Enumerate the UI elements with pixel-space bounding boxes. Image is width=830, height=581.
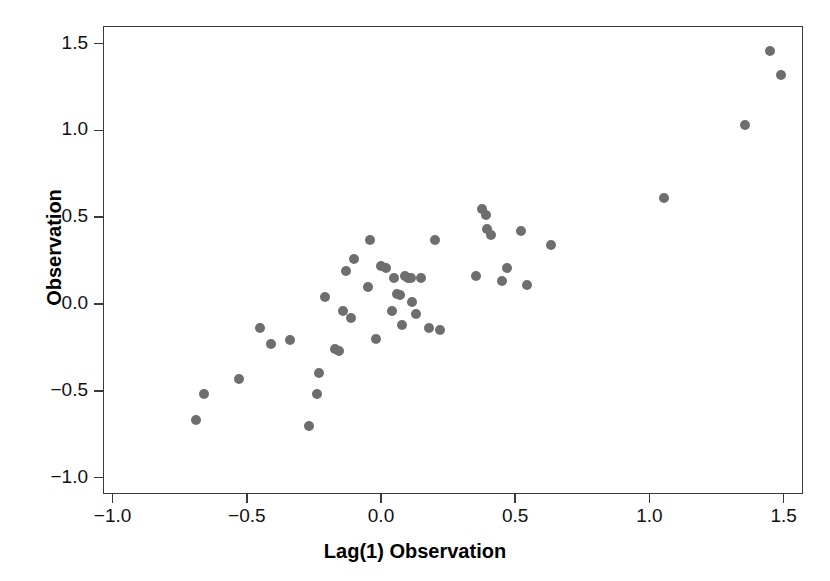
y-axis-tick <box>94 216 103 218</box>
lag-plot-figure: −1.0−0.50.00.51.01.5−1.0−0.50.00.51.01.5… <box>0 0 830 581</box>
x-axis-tick-label: 0.0 <box>341 505 421 527</box>
x-axis-tick <box>112 494 114 503</box>
x-axis-tick <box>246 494 248 503</box>
x-axis-tick <box>649 494 651 503</box>
x-axis-tick-label: −1.0 <box>73 505 153 527</box>
plot-frame <box>103 26 803 494</box>
y-axis-tick-label: 1.5 <box>0 32 88 54</box>
y-axis-title: Observation <box>43 98 66 398</box>
y-axis-tick <box>94 303 103 305</box>
x-axis-tick <box>783 494 785 503</box>
x-axis-tick-label: 0.5 <box>475 505 555 527</box>
y-axis-tick <box>94 43 103 45</box>
x-axis-tick-label: −0.5 <box>207 505 287 527</box>
x-axis-tick <box>380 494 382 503</box>
y-axis-tick-label: −1.0 <box>0 466 88 488</box>
y-axis-tick <box>94 130 103 132</box>
x-axis-tick-label: 1.0 <box>609 505 689 527</box>
y-axis-tick <box>94 477 103 479</box>
x-axis-tick-label: 1.5 <box>744 505 824 527</box>
x-axis-title: Lag(1) Observation <box>0 540 830 563</box>
y-axis-tick <box>94 390 103 392</box>
x-axis-tick <box>514 494 516 503</box>
